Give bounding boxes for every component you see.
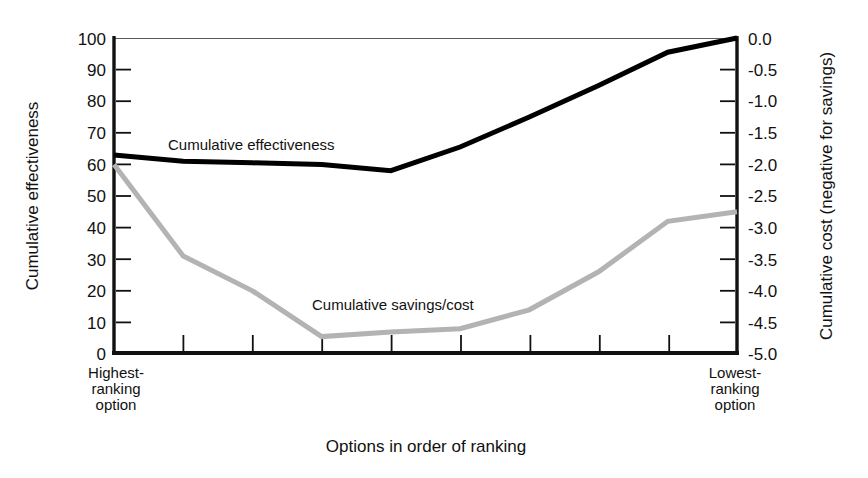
- right-tick-label-0-5: -0.5: [748, 61, 777, 80]
- lowest-ranking-line-3: option: [715, 396, 756, 413]
- right-tick-label-1-0: -1.0: [748, 92, 777, 111]
- right-tick-label-1-5: -1.5: [748, 124, 777, 143]
- right-tick-label-4-5: -4.5: [748, 314, 777, 333]
- right-tick-label-3-0: -3.0: [748, 219, 777, 238]
- x-axis-title: Options in order of ranking: [326, 437, 526, 456]
- annotation-cumulative-effectiveness: Cumulative effectiveness: [168, 136, 334, 153]
- left-axis-title: Cumulative effectiveness: [23, 102, 42, 291]
- left-tick-label-70: 70: [87, 124, 106, 143]
- lowest-ranking-line-2: ranking: [710, 380, 759, 397]
- right-tick-label-3-5: -3.5: [748, 251, 777, 270]
- left-tick-label-30: 30: [87, 251, 106, 270]
- x-label-highest-ranking-option: Highest- ranking option: [88, 364, 144, 413]
- left-tick-label-0: 0: [97, 345, 106, 364]
- left-tick-label-90: 90: [87, 61, 106, 80]
- highest-ranking-line-2: ranking: [91, 380, 140, 397]
- right-axis-title: Cumulative cost (negative for savings): [817, 52, 836, 340]
- left-tick-label-40: 40: [87, 219, 106, 238]
- left-tick-label-20: 20: [87, 282, 106, 301]
- left-tick-labels: 100 90 80 70 60 50 40 30 20 10 0: [78, 30, 106, 364]
- chart-figure: Cumulative effectiveness Cumulative savi…: [0, 0, 868, 478]
- right-tick-label-2-5: -2.5: [748, 187, 777, 206]
- left-tick-label-10: 10: [87, 314, 106, 333]
- chart-canvas: Cumulative effectiveness Cumulative savi…: [0, 0, 868, 478]
- right-tick-label-0-0: 0.0: [748, 30, 772, 49]
- right-tick-label-4-0: -4.0: [748, 282, 777, 301]
- x-label-lowest-ranking-option: Lowest- ranking option: [709, 364, 762, 413]
- left-tick-label-80: 80: [87, 92, 106, 111]
- highest-ranking-line-3: option: [96, 396, 137, 413]
- annotation-cumulative-savings-cost: Cumulative savings/cost: [312, 296, 475, 313]
- right-tick-label-2-0: -2.0: [748, 156, 777, 175]
- highest-ranking-line-1: Highest-: [88, 364, 144, 381]
- left-tick-label-60: 60: [87, 156, 106, 175]
- right-tick-label-5-0: -5.0: [748, 345, 777, 364]
- right-tick-labels: 0.0 -0.5 -1.0 -1.5 -2.0 -2.5 -3.0 -3.5 -…: [748, 30, 777, 364]
- left-tick-label-100: 100: [78, 30, 106, 49]
- lowest-ranking-line-1: Lowest-: [709, 364, 762, 381]
- left-tick-label-50: 50: [87, 187, 106, 206]
